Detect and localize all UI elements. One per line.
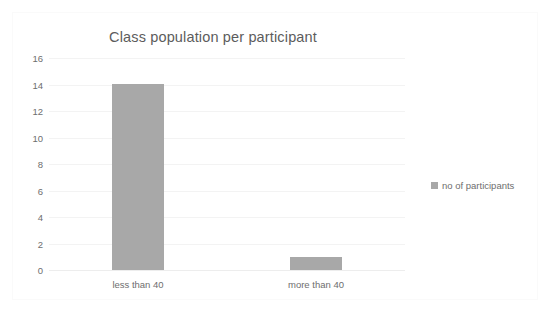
y-axis-tick-label: 10 (32, 133, 43, 144)
chart-title: Class population per participant (13, 29, 413, 45)
y-axis-tick-label: 2 (38, 239, 43, 250)
legend-swatch-icon (431, 182, 438, 189)
y-axis-tick-label: 0 (38, 265, 43, 276)
x-axis-tick-label: more than 40 (288, 279, 344, 290)
gridline (49, 270, 405, 271)
chart-container: Class population per participant 0246810… (12, 12, 538, 300)
legend-item-label: no of participants (442, 180, 514, 191)
y-axis-tick-label: 16 (32, 53, 43, 64)
plot-area: 0246810121416less than 40more than 40 (49, 58, 405, 270)
bar-group: less than 40 (49, 58, 227, 270)
bar-group: more than 40 (227, 58, 405, 270)
y-axis-tick-label: 4 (38, 212, 43, 223)
y-axis-tick-label: 14 (32, 80, 43, 91)
chart-legend: no of participants (431, 180, 514, 191)
y-axis-tick-label: 8 (38, 159, 43, 170)
bar[interactable] (112, 84, 164, 270)
bar[interactable] (290, 257, 342, 270)
x-axis-tick-label: less than 40 (112, 279, 163, 290)
y-axis-tick-label: 12 (32, 106, 43, 117)
y-axis-tick-label: 6 (38, 186, 43, 197)
